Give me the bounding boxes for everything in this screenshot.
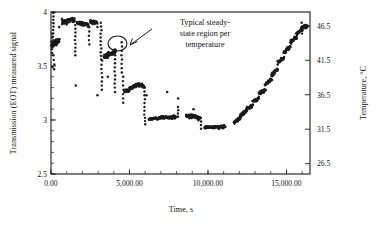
data-point bbox=[122, 84, 124, 86]
data-point bbox=[100, 68, 102, 70]
data-point bbox=[101, 80, 103, 82]
data-point bbox=[73, 19, 75, 21]
data-point bbox=[52, 19, 54, 21]
data-point bbox=[107, 76, 110, 79]
y-axis-title: Transmission (EOT) measured signal bbox=[9, 31, 18, 154]
y2-axis-ticks bbox=[305, 26, 310, 164]
annotation-callout bbox=[108, 29, 152, 51]
data-point bbox=[99, 36, 101, 38]
data-point bbox=[114, 66, 116, 68]
data-point bbox=[121, 41, 123, 43]
data-point bbox=[61, 18, 63, 20]
data-point bbox=[74, 39, 76, 41]
x-axis-tick-label: 10,000.00 bbox=[193, 179, 224, 188]
x-axis-tick-label: 5,000.00 bbox=[116, 179, 143, 188]
data-point bbox=[101, 76, 103, 78]
data-point bbox=[144, 123, 146, 125]
data-point bbox=[300, 22, 302, 24]
x-axis-title: Time, s bbox=[169, 205, 193, 214]
data-point bbox=[58, 26, 61, 29]
data-point bbox=[99, 44, 101, 46]
data-point bbox=[132, 88, 134, 90]
data-point bbox=[114, 78, 116, 80]
data-point bbox=[122, 89, 124, 91]
data-point bbox=[88, 35, 90, 37]
data-point bbox=[114, 74, 116, 76]
x-axis-tick-label: 0.00 bbox=[44, 179, 57, 188]
data-point bbox=[252, 103, 254, 105]
y2-axis-title: Temperature, °C bbox=[359, 65, 368, 120]
data-point bbox=[177, 97, 180, 100]
data-point bbox=[88, 30, 90, 32]
data-point bbox=[52, 54, 54, 56]
steady-state-circle-marker bbox=[108, 36, 127, 51]
data-point bbox=[301, 29, 303, 31]
data-point bbox=[283, 56, 285, 58]
data-point bbox=[51, 32, 53, 34]
data-point bbox=[51, 36, 53, 38]
data-point bbox=[99, 33, 101, 35]
data-point bbox=[277, 64, 279, 66]
data-point bbox=[307, 25, 309, 27]
data-point bbox=[144, 117, 146, 119]
data-point bbox=[52, 25, 54, 27]
data-point bbox=[271, 79, 273, 81]
data-point bbox=[120, 54, 122, 56]
data-point bbox=[256, 100, 258, 102]
data-point bbox=[88, 26, 90, 28]
chart-svg: 0.005,000.0010,000.0015,000.00 2.533.54 … bbox=[0, 0, 380, 232]
data-point bbox=[224, 126, 226, 128]
data-point bbox=[301, 32, 303, 34]
y2-axis-tick-label: 26.5 bbox=[317, 159, 330, 168]
data-point bbox=[144, 120, 146, 122]
data-point bbox=[120, 63, 122, 65]
data-point bbox=[200, 117, 202, 119]
data-point bbox=[305, 27, 307, 29]
data-point bbox=[74, 31, 76, 33]
data-point bbox=[100, 22, 102, 24]
x-axis-tick-labels: 0.005,000.0010,000.0015,000.00 bbox=[44, 179, 301, 188]
data-point bbox=[88, 43, 90, 45]
data-point bbox=[52, 39, 54, 41]
y2-axis-tick-labels: 26.531.536.541.546.5 bbox=[317, 22, 330, 169]
y-axis-tick-label: 4 bbox=[43, 8, 47, 17]
data-point bbox=[121, 71, 123, 73]
data-point bbox=[200, 127, 202, 129]
data-point bbox=[143, 110, 145, 112]
data-point bbox=[88, 39, 90, 41]
data-point bbox=[100, 55, 102, 57]
data-point bbox=[264, 89, 266, 91]
data-point bbox=[145, 94, 148, 97]
data-point bbox=[177, 109, 179, 111]
data-point bbox=[100, 72, 102, 74]
y2-axis-tick-label: 41.5 bbox=[317, 56, 330, 65]
data-point bbox=[74, 54, 76, 56]
data-point bbox=[121, 58, 123, 60]
data-point bbox=[200, 124, 202, 126]
data-point bbox=[74, 28, 76, 30]
data-point bbox=[66, 24, 68, 26]
data-point bbox=[50, 40, 52, 42]
data-point bbox=[52, 15, 54, 17]
y2-axis-tick-label: 36.5 bbox=[317, 91, 330, 100]
data-point bbox=[100, 40, 102, 42]
data-point bbox=[143, 86, 145, 88]
data-point bbox=[121, 67, 123, 69]
data-point bbox=[82, 22, 84, 24]
data-point bbox=[122, 97, 124, 99]
data-point bbox=[74, 35, 76, 37]
data-point bbox=[101, 84, 103, 86]
data-point bbox=[143, 90, 145, 92]
data-point bbox=[53, 63, 55, 65]
data-point bbox=[114, 58, 116, 60]
x-axis-tick-label: 15,000.00 bbox=[271, 179, 302, 188]
data-point bbox=[200, 120, 202, 122]
data-point bbox=[301, 25, 303, 27]
data-point bbox=[113, 70, 115, 72]
data-point bbox=[74, 50, 76, 52]
data-point bbox=[99, 51, 101, 53]
data-point bbox=[52, 22, 54, 24]
data-point bbox=[100, 47, 102, 49]
data-point bbox=[258, 95, 260, 97]
data-point bbox=[122, 102, 124, 104]
